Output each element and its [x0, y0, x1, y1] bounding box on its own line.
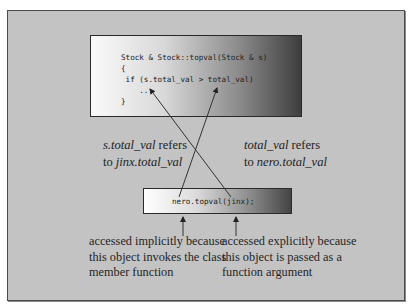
left-label-prefix: to — [103, 155, 116, 169]
desc-line: this object is passed as a — [222, 250, 357, 266]
desc-line: accessed explicitly because — [222, 234, 357, 250]
member-function-code-box: Stock & Stock::topval(Stock & s) { if (s… — [90, 35, 302, 117]
desc-line: this object invokes the class — [89, 250, 226, 266]
code-line-if: if (s.total_val > total_val) — [121, 75, 254, 85]
right-label-target: nero.total_val — [257, 155, 327, 169]
code-line-ellipsis: ... — [121, 86, 153, 96]
function-call-code-box: nero.topval(jinx); — [143, 188, 292, 214]
left-reference-label: s.total_val refers to jinx.total_val — [103, 137, 187, 171]
desc-line: accessed implicitly because — [89, 234, 226, 250]
right-label-term: total_val — [244, 138, 288, 152]
code-line-signature: Stock & Stock::topval(Stock & s) — [121, 53, 267, 63]
left-label-rest: refers — [155, 138, 187, 152]
right-reference-label: total_val refers to nero.total_val — [244, 137, 327, 171]
desc-line: function argument — [222, 265, 357, 281]
code-line-open-brace: { — [121, 64, 126, 74]
implicit-access-description: accessed implicitly because this object … — [89, 234, 226, 281]
left-label-target: jinx.total_val — [116, 155, 182, 169]
explicit-access-description: accessed explicitly because this object … — [222, 234, 357, 281]
right-label-rest: refers — [288, 138, 320, 152]
right-label-prefix: to — [244, 155, 257, 169]
code-line-close-brace: } — [121, 97, 126, 107]
desc-line: member function — [89, 265, 226, 281]
left-label-term: s.total_val — [103, 138, 155, 152]
code-line-call: nero.topval(jinx); — [172, 197, 254, 207]
